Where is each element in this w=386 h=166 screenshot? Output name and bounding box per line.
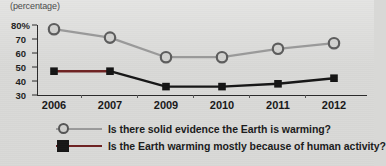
legend-item-evidence: Is there solid evidence the Earth is war… xyxy=(56,121,331,137)
x-tick-label-2012: 2012 xyxy=(322,99,346,111)
data-point-evidence-2006 xyxy=(49,24,59,34)
data-point-human-activity-2006 xyxy=(50,67,58,75)
chart-legend: Is there solid evidence the Earth is war… xyxy=(0,118,374,166)
legend-label-evidence: Is there solid evidence the Earth is war… xyxy=(102,123,331,135)
data-point-human-activity-2010 xyxy=(218,83,226,91)
data-point-human-activity-2012 xyxy=(330,74,338,82)
x-tick-label-2009: 2009 xyxy=(154,99,178,111)
x-tick-label-2010: 2010 xyxy=(210,99,234,111)
data-point-evidence-2007 xyxy=(105,32,115,42)
data-point-evidence-2012 xyxy=(329,38,339,48)
open-circle-marker-icon xyxy=(56,122,102,136)
legend-label-human-activity: Is the Earth warming mostly because of h… xyxy=(102,140,386,152)
data-point-human-activity-2009 xyxy=(162,83,170,91)
data-point-human-activity-2011 xyxy=(274,80,282,88)
x-tick-label-2007: 2007 xyxy=(98,99,122,111)
data-point-evidence-2011 xyxy=(273,44,283,54)
data-point-evidence-2009 xyxy=(161,52,171,62)
x-tick-label-2011: 2011 xyxy=(266,99,290,111)
line-series-evidence xyxy=(54,29,334,57)
filled-square-marker-icon xyxy=(56,139,102,153)
x-tick-label-2006: 2006 xyxy=(42,99,66,111)
series-layer xyxy=(0,0,374,112)
plot-area: (percentage) 80% 70 60 50 40 30 20 xyxy=(0,0,374,112)
legend-item-human-activity: Is the Earth warming mostly because of h… xyxy=(56,138,386,154)
data-point-evidence-2010 xyxy=(217,52,227,62)
data-point-human-activity-2007 xyxy=(106,67,114,75)
